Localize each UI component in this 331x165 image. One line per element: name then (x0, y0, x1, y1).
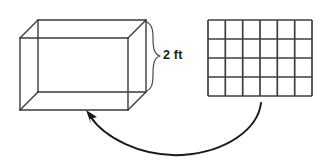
prism-edge-depth-bottom-right (128, 92, 146, 110)
height-brace (145, 21, 160, 92)
prism-edge-depth-bottom-left (20, 92, 38, 110)
prism-front-face (20, 38, 128, 110)
grid-to-prism-arrow (86, 103, 261, 155)
prism-edge-depth-top-left (20, 20, 38, 38)
figure-canvas (0, 0, 331, 165)
prism-edge-depth-top-right (128, 20, 146, 38)
height-dimension-label: 2 ft (163, 49, 183, 62)
prism-back-face (38, 20, 146, 92)
unit-square-grid (208, 20, 312, 96)
prism-depth-edges (20, 20, 146, 110)
brace-icon (145, 21, 160, 92)
geometry-figure: 2 ft (0, 0, 331, 165)
rectangular-prism (20, 20, 146, 110)
arrow-curve-path (90, 103, 261, 155)
